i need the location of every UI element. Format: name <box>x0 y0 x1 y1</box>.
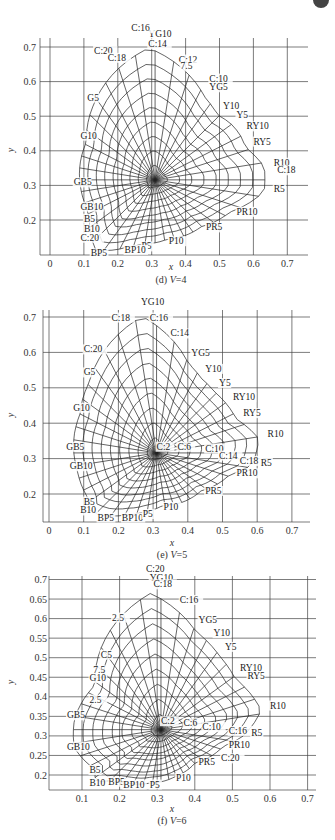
hue-chroma-label: 2.5 <box>112 613 124 623</box>
hue-line <box>155 180 174 238</box>
y-tick-label: 0.7 <box>35 574 48 585</box>
hue-chroma-label: YG10 <box>141 297 164 307</box>
hue-chroma-label: C:10 <box>202 722 221 732</box>
hue-chroma-label: RY10 <box>233 392 255 402</box>
hue-chroma-label: GB10 <box>67 742 90 752</box>
chroma-contour <box>105 93 229 227</box>
munsell-chromaticity-figure: 0.70.60.50.40.30.200.10.20.30.40.50.60.7… <box>0 0 335 840</box>
x-tick-label: 0.3 <box>147 525 160 536</box>
x-axis-label: x <box>169 537 175 548</box>
hue-line <box>155 75 189 180</box>
hue-chroma-label: GB5 <box>74 177 92 187</box>
hue-chroma-label: P10 <box>169 236 184 246</box>
y-tick-label: 0.7 <box>24 312 37 323</box>
hue-line <box>157 453 174 505</box>
x-tick-label: 0.4 <box>179 258 192 269</box>
hue-chroma-label: RY5 <box>253 137 271 147</box>
x-axis-label: x <box>168 261 174 272</box>
hue-chroma-label: R5 <box>251 728 262 738</box>
hue-chroma-label: 7.5 <box>181 61 193 71</box>
chroma-contour <box>93 624 238 772</box>
hue-chroma-label: B10 <box>90 778 106 788</box>
y-tick-label: 0.2 <box>24 489 37 500</box>
hue-chroma-label: Y10 <box>214 628 231 638</box>
chroma-contour <box>130 137 192 204</box>
x-tick-label: 0.1 <box>78 258 91 269</box>
x-tick-label: 0 <box>48 258 53 269</box>
y-tick-label: 0.3 <box>35 730 48 741</box>
x-tick-label: 0.4 <box>189 793 202 804</box>
hue-chroma-label: BP5 <box>91 248 108 258</box>
chroma-contour <box>83 334 247 509</box>
chroma-contour <box>110 378 212 488</box>
hue-line <box>155 180 202 227</box>
hue-chroma-label: G10 <box>81 131 98 141</box>
hue-chroma-label: C:20 <box>146 564 165 574</box>
hue-line <box>161 629 194 730</box>
x-tick-label: 0.2 <box>113 793 126 804</box>
y-tick-label: 0.4 <box>24 145 37 156</box>
x-tick-label: 0.3 <box>151 793 164 804</box>
hue-chroma-label: C:16 <box>131 23 150 33</box>
y-tick-label: 0.6 <box>35 613 48 624</box>
y-tick-label: 0.4 <box>24 418 37 429</box>
hue-chroma-label: C:16 <box>180 595 199 605</box>
hue-chroma-label: C:20 <box>81 233 100 243</box>
hue-chroma-label: C:18 <box>153 579 172 589</box>
hue-line <box>137 453 157 514</box>
hue-chroma-label: C:16 <box>150 313 169 323</box>
hue-chroma-label: BP5 <box>98 513 115 523</box>
hue-chroma-label: C:14 <box>148 39 167 49</box>
hue-line <box>96 453 156 513</box>
chroma-contour <box>101 363 224 495</box>
hue-chroma-label: P10 <box>176 773 191 783</box>
hue-chroma-label: Y5 <box>236 110 248 120</box>
x-tick-label: 0.5 <box>213 258 226 269</box>
hue-line <box>157 453 229 476</box>
y-tick-label: 0.6 <box>24 347 37 358</box>
hue-chroma-label: YG5 <box>199 615 218 625</box>
hue-chroma-label: GB5 <box>67 710 85 720</box>
chroma-contour <box>122 669 205 754</box>
x-tick-label: 0.2 <box>112 258 125 269</box>
x-tick-label: 0.7 <box>286 525 299 536</box>
chroma-contour <box>79 50 265 251</box>
x-axis-label: x <box>169 803 175 814</box>
y-tick-label: 0.7 <box>24 42 37 53</box>
hue-chroma-label: Y5 <box>219 378 231 388</box>
hue-chroma-label: C:18 <box>240 456 259 466</box>
x-tick-label: 0 <box>47 525 52 536</box>
chart-caption: (f) V=6 <box>157 815 186 827</box>
hue-line <box>161 730 221 749</box>
hue-line <box>80 730 161 756</box>
y-axis-label: y <box>5 412 16 418</box>
hue-chroma-label: P5 <box>143 509 153 519</box>
hue-chroma-label: C:6 <box>184 718 198 728</box>
y-axis-label: y <box>5 679 16 685</box>
hue-chroma-label: GB10 <box>81 202 104 212</box>
x-tick-label: 0.2 <box>112 525 125 536</box>
hue-chroma-label: P10 <box>164 502 179 512</box>
hue-chroma-label: YG5 <box>191 348 210 358</box>
chroma-contour <box>120 393 202 481</box>
y-tick-label: 0.45 <box>30 672 48 683</box>
hue-chroma-label: RY5 <box>247 671 265 681</box>
hue-chroma-label: B5 <box>90 765 101 775</box>
hue-line <box>155 124 231 179</box>
y-tick-label: 0.2 <box>24 215 37 226</box>
y-tick-label: 0.3 <box>24 180 37 191</box>
y-tick-label: 0.25 <box>30 750 48 761</box>
hue-chroma-label: C5 <box>101 650 112 660</box>
y-tick-label: 0.3 <box>24 453 37 464</box>
x-tick-label: 0.6 <box>247 258 260 269</box>
x-tick-label: 0.6 <box>251 525 264 536</box>
chart-caption: (e) V=5 <box>157 549 187 561</box>
chroma-contour <box>88 65 253 243</box>
chart-v4: 0.70.60.50.40.30.200.10.20.30.40.50.60.7… <box>5 23 308 286</box>
hue-line <box>83 399 157 453</box>
hue-chroma-label: GB5 <box>66 442 84 452</box>
hue-chroma-label: PR10 <box>229 740 250 750</box>
hue-line <box>85 180 155 203</box>
hue-line <box>143 730 161 784</box>
hue-chroma-label: G5 <box>84 367 96 377</box>
